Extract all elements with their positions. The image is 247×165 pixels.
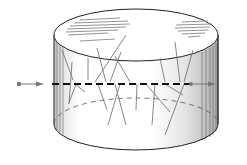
diagram-canvas <box>0 0 247 165</box>
cylinder-top-face <box>54 9 218 61</box>
cylinder-fiber-diagram <box>0 0 247 165</box>
